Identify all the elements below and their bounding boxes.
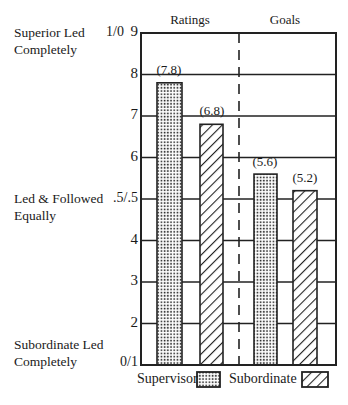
anchor-top: Superior Led Completely: [14, 24, 85, 58]
y-tick-9: 9: [124, 23, 138, 40]
bar-subordinate-goals: [293, 191, 317, 365]
value-label-subordinate-ratings: (6.8): [187, 103, 237, 119]
y-tick-4: 4: [124, 231, 138, 248]
header-ratings: Ratings: [145, 12, 235, 28]
ratio-top: 1/0: [84, 24, 124, 40]
legend-label-supervisor: Supervisor: [137, 371, 198, 387]
ratio-bot: 0/1: [98, 354, 138, 370]
y-tick-7: 7: [124, 106, 138, 123]
anchor-bot-line1: Subordinate Led: [14, 336, 104, 353]
anchor-mid-line1: Led & Followed: [14, 190, 103, 207]
y-tick-6: 6: [124, 148, 138, 165]
anchor-mid-line2: Equally: [14, 207, 103, 224]
y-tick-2: 2: [124, 314, 138, 331]
bar-supervisor-ratings: [157, 83, 182, 365]
value-label-supervisor-goals: (5.6): [240, 154, 290, 170]
header-goals: Goals: [240, 12, 330, 28]
anchor-middle: Led & Followed Equally: [14, 190, 103, 224]
ratio-mid: .5/.5: [98, 190, 138, 206]
bar-supervisor-goals: [254, 174, 277, 365]
anchor-top-line1: Superior Led: [14, 24, 85, 41]
anchor-bot-line2: Completely: [14, 353, 104, 370]
legend-label-subordinate: Subordinate: [229, 371, 297, 387]
legend-swatch-supervisor: [197, 372, 220, 387]
legend-swatch-subordinate: [302, 372, 328, 387]
y-tick-3: 3: [124, 272, 138, 289]
y-tick-8: 8: [124, 65, 138, 82]
anchor-bottom: Subordinate Led Completely: [14, 336, 104, 370]
value-label-supervisor-ratings: (7.8): [144, 62, 194, 78]
bar-subordinate-ratings: [200, 124, 223, 365]
anchor-top-line2: Completely: [14, 41, 85, 58]
value-label-subordinate-goals: (5.2): [280, 170, 330, 186]
